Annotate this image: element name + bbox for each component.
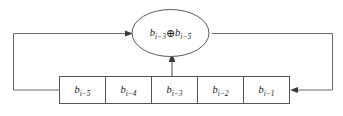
lfsr-diagram: bi−3⊕bi−5 bi−5 bi−4 bi−3 bi−2 bi− [0,0,343,116]
xor-left-subscript: i−3 [155,32,166,41]
xor-right-subscript: i−5 [180,32,191,41]
arrow-head-into-register [290,87,298,93]
xor-node: bi−3⊕bi−5 [132,10,209,57]
shift-register: bi−5 bi−4 bi−3 bi−2 bi−1 [60,77,290,104]
lfsr-diagram-canvas: bi−3⊕bi−5 bi−5 bi−4 bi−3 bi−2 bi− [0,0,343,116]
cell-0-subscript: i−5 [80,88,91,97]
cell-4-subscript: i−1 [264,88,275,97]
xor-operator: ⊕ [166,27,175,39]
cell-3-subscript: i−2 [218,88,229,97]
cell-2-subscript: i−3 [172,88,183,97]
cell-1-subscript: i−4 [126,88,137,97]
